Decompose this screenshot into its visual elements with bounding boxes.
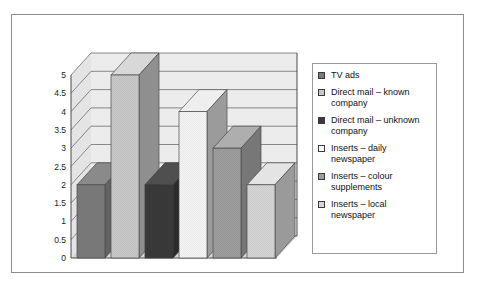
figure-frame: 5 4.5 4 3.5 3 2.5 2 1.5 1 0.5 0 xyxy=(11,14,464,273)
legend-item-inserts-colour-supplements[interactable]: Inserts – colour supplements xyxy=(318,171,431,193)
ytick-4: 4 xyxy=(61,107,66,117)
bar-chart-svg: 5 4.5 4 3.5 3 2.5 2 1.5 1 0.5 0 xyxy=(29,31,309,261)
legend-item-tv-ads[interactable]: TV ads xyxy=(318,70,431,81)
legend-item-label: Direct mail – unknown company xyxy=(331,115,420,137)
legend-item-label: TV ads xyxy=(331,70,360,81)
ytick-0_5: 0.5 xyxy=(54,235,66,245)
ytick-0: 0 xyxy=(61,253,66,261)
ytick-2: 2 xyxy=(61,180,66,190)
bar-inserts-local-newspaper[interactable] xyxy=(247,163,295,258)
ytick-2_5: 2.5 xyxy=(54,162,66,172)
legend-item-inserts-local-newspaper[interactable]: Inserts – local newspaper xyxy=(318,199,431,221)
legend-swatch-icon xyxy=(318,145,325,152)
legend-swatch-icon xyxy=(318,117,325,124)
y-axis-tick-labels: 5 4.5 4 3.5 3 2.5 2 1.5 1 0.5 0 xyxy=(54,70,66,261)
legend-item-inserts-daily-newspaper[interactable]: Inserts – daily newspaper xyxy=(318,143,431,165)
ytick-3: 3 xyxy=(61,143,66,153)
bar-chart-plot-area: 5 4.5 4 3.5 3 2.5 2 1.5 1 0.5 0 xyxy=(29,31,309,261)
legend-item-direct-mail-known[interactable]: Direct mail – known company xyxy=(318,87,431,109)
legend-item-label: Inserts – colour supplements xyxy=(331,171,393,193)
ytick-1_5: 1.5 xyxy=(54,198,66,208)
ytick-3_5: 3.5 xyxy=(54,125,66,135)
legend-swatch-icon xyxy=(318,173,325,180)
legend-item-label: Direct mail – known company xyxy=(331,87,410,109)
scan-artifact xyxy=(0,0,480,10)
legend-item-direct-mail-unknown[interactable]: Direct mail – unknown company xyxy=(318,115,431,137)
ytick-1: 1 xyxy=(61,216,66,226)
ytick-4_5: 4.5 xyxy=(54,88,66,98)
chart-legend: TV ads Direct mail – known company Direc… xyxy=(312,63,437,254)
legend-swatch-icon xyxy=(318,89,325,96)
legend-item-label: Inserts – daily newspaper xyxy=(331,143,387,165)
legend-swatch-icon xyxy=(318,201,325,208)
legend-swatch-icon xyxy=(318,72,325,79)
ytick-5: 5 xyxy=(61,70,66,80)
legend-item-label: Inserts – local newspaper xyxy=(331,199,387,221)
